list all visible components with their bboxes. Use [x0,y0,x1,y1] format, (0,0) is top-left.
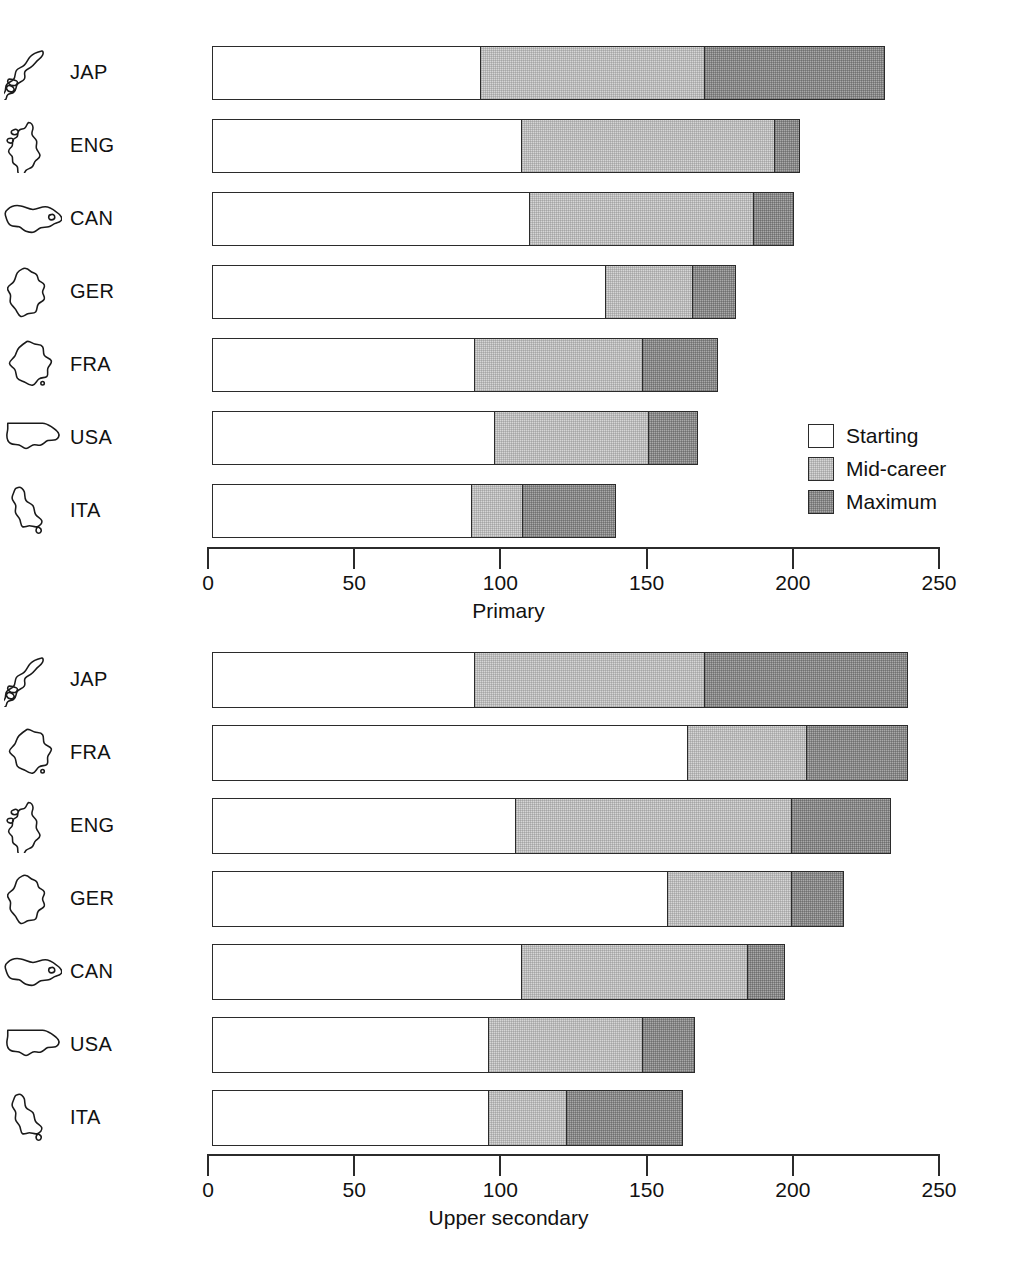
segment-mid-career[interactable] [471,484,524,538]
country-code-label: CAN [66,960,130,983]
segment-starting[interactable] [212,411,496,465]
axis-tick-label: 50 [343,571,366,595]
italy-outline-icon [0,484,66,538]
segment-starting[interactable] [212,1090,490,1146]
country-code-label: JAP [66,61,130,84]
segment-mid-career[interactable] [474,652,705,708]
segment-maximum[interactable] [522,484,616,538]
legend-item[interactable]: Starting [808,424,946,448]
legend-swatch-mid [808,457,834,481]
bar-track [130,862,1017,935]
axis-tick [646,547,648,569]
segment-starting[interactable] [212,725,689,781]
segment-starting[interactable] [212,119,522,173]
country-code-label: FRA [66,741,130,764]
stacked-bar [212,725,908,781]
bar-track [130,935,1017,1008]
stacked-bar [212,119,800,173]
segment-maximum[interactable] [642,338,718,392]
chart-row: GER [0,862,1017,935]
segment-mid-career[interactable] [667,871,793,927]
segment-mid-career[interactable] [687,725,807,781]
chart-row: ENG [0,109,1017,182]
stacked-bar [212,944,785,1000]
segment-starting[interactable] [212,944,522,1000]
segment-starting[interactable] [212,798,516,854]
panel-primary: JAPENGCANGERFRAUSAITA050100150200250Prim… [0,36,1017,621]
axis-tick-label: 100 [483,1178,518,1202]
legend-item[interactable]: Maximum [808,490,946,514]
segment-starting[interactable] [212,652,475,708]
bar-track [130,36,1017,109]
axis-tick-label: 0 [202,1178,214,1202]
segment-starting[interactable] [212,338,475,392]
stacked-bar [212,871,844,927]
axis-tick [499,1154,501,1176]
legend: StartingMid-careerMaximum [808,424,946,514]
canada-outline-icon [0,192,66,246]
segment-mid-career[interactable] [515,798,793,854]
segment-starting[interactable] [212,265,607,319]
segment-maximum[interactable] [642,1017,695,1073]
axis-tick-label: 150 [629,571,664,595]
segment-mid-career[interactable] [521,119,775,173]
segment-starting[interactable] [212,46,481,100]
segment-maximum[interactable] [566,1090,683,1146]
segment-mid-career[interactable] [488,1017,643,1073]
chart-row: ENG [0,789,1017,862]
segment-mid-career[interactable] [488,1090,567,1146]
axis-tick-label: 250 [921,1178,956,1202]
chart-row: FRA [0,716,1017,789]
bar-track [130,109,1017,182]
united-states-outline-icon [0,411,66,465]
country-code-label: CAN [66,207,130,230]
country-code-label: ITA [66,1106,130,1129]
country-code-label: USA [66,426,130,449]
segment-starting[interactable] [212,192,531,246]
segment-maximum[interactable] [747,944,785,1000]
stacked-bar [212,46,885,100]
segment-maximum[interactable] [774,119,800,173]
segment-mid-career[interactable] [529,192,754,246]
stacked-bar [212,484,616,538]
segment-maximum[interactable] [704,46,885,100]
axis-title: Primary [0,599,1017,623]
segment-maximum[interactable] [791,871,844,927]
bar-track [130,643,1017,716]
axis-tick-label: 200 [775,1178,810,1202]
segment-maximum[interactable] [806,725,908,781]
axis-tick-label: 150 [629,1178,664,1202]
segment-starting[interactable] [212,1017,490,1073]
chart-row: CAN [0,182,1017,255]
united-kingdom-outline-icon [0,799,66,853]
bar-track [130,1008,1017,1081]
stacked-bar [212,798,891,854]
segment-starting[interactable] [212,484,472,538]
segment-mid-career[interactable] [494,411,649,465]
segment-starting[interactable] [212,871,668,927]
legend-swatch-starting [808,424,834,448]
segment-mid-career[interactable] [605,265,693,319]
stacked-bar [212,192,794,246]
panel-upper-secondary: JAPFRAENGGERCANUSAITA050100150200250Uppe… [0,643,1017,1228]
country-code-label: GER [66,887,130,910]
legend-item[interactable]: Mid-career [808,457,946,481]
stacked-bar [212,652,908,708]
segment-maximum[interactable] [648,411,698,465]
legend-label: Starting [846,424,918,448]
chart-primary: JAPENGCANGERFRAUSAITA050100150200250Prim… [0,0,1017,621]
segment-maximum[interactable] [753,192,794,246]
stacked-bar [212,1017,695,1073]
segment-mid-career[interactable] [474,338,644,392]
chart-row: ITA [0,1081,1017,1154]
segment-mid-career[interactable] [521,944,749,1000]
country-code-label: USA [66,1033,130,1056]
axis-tick [938,1154,940,1176]
chart-row: USA [0,1008,1017,1081]
stacked-bar [212,265,736,319]
segment-maximum[interactable] [704,652,909,708]
segment-maximum[interactable] [692,265,736,319]
segment-mid-career[interactable] [480,46,705,100]
segment-maximum[interactable] [791,798,890,854]
axis-title: Upper secondary [0,1206,1017,1230]
